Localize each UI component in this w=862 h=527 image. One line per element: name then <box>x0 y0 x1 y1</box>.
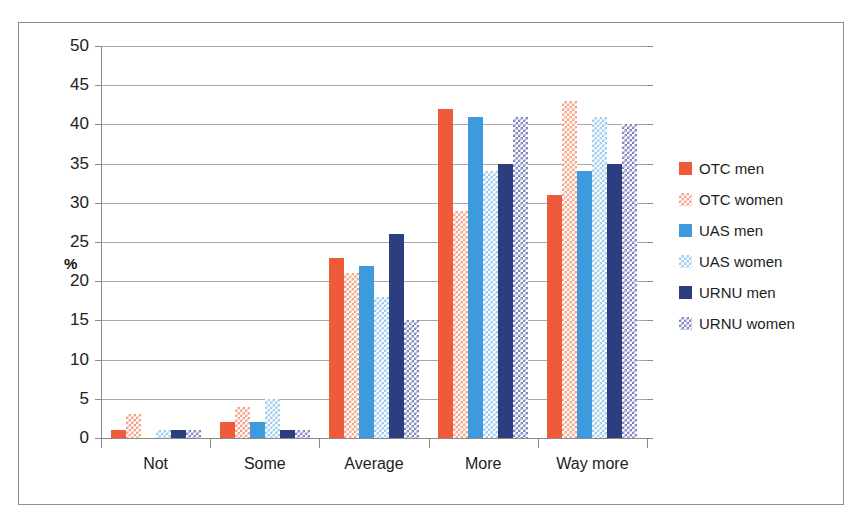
bar-average-uas-women[interactable] <box>374 297 389 438</box>
chart-frame: % 50454035302520151050 NotSomeAverageMor… <box>18 22 844 505</box>
y-tick-right-5 <box>647 399 653 400</box>
x-tick-1 <box>210 438 211 448</box>
bar-more-urnu-women[interactable] <box>513 117 528 438</box>
bar-group-way-more <box>547 46 637 438</box>
x-tick-5 <box>647 438 648 448</box>
y-axis-title: % <box>64 255 77 272</box>
bar-group-some <box>220 46 310 438</box>
bar-average-uas-men[interactable] <box>359 266 374 438</box>
bar-average-urnu-women[interactable] <box>404 320 419 438</box>
x-tick-4 <box>538 438 539 448</box>
bar-some-uas-women[interactable] <box>265 399 280 438</box>
y-axis-label-15: 15 <box>70 310 89 330</box>
bar-more-otc-women[interactable] <box>453 211 468 438</box>
bar-way-more-uas-women[interactable] <box>592 117 607 438</box>
bar-some-otc-women[interactable] <box>235 407 250 438</box>
x-axis-labels: NotSomeAverageMoreWay more <box>101 455 647 485</box>
chart-legend: OTC menOTC womenUAS menUAS womenURNU men… <box>679 153 829 339</box>
bar-not-uas-women[interactable] <box>156 430 171 438</box>
y-axis-label-35: 35 <box>70 154 89 174</box>
legend-item-uas-men[interactable]: UAS men <box>679 215 829 246</box>
bar-average-urnu-men[interactable] <box>389 234 404 438</box>
y-axis-label-5: 5 <box>80 389 89 409</box>
bar-group-more <box>438 46 528 438</box>
legend-swatch-otc-women <box>679 193 692 206</box>
bar-more-uas-women[interactable] <box>483 171 498 438</box>
bar-group-not <box>111 46 201 438</box>
y-tick-right-50 <box>647 46 653 47</box>
x-axis-label-more: More <box>465 455 501 473</box>
legend-swatch-urnu-women <box>679 317 692 330</box>
bar-some-uas-men[interactable] <box>250 422 265 438</box>
bar-not-urnu-men[interactable] <box>171 430 186 438</box>
bar-way-more-urnu-women[interactable] <box>622 124 637 438</box>
y-axis-label-10: 10 <box>70 350 89 370</box>
legend-item-urnu-men[interactable]: URNU men <box>679 277 829 308</box>
x-axis-label-way-more: Way more <box>556 455 628 473</box>
x-tick-3 <box>429 438 430 448</box>
bar-not-urnu-women[interactable] <box>186 430 201 438</box>
x-axis-label-average: Average <box>344 455 403 473</box>
y-axis-label-25: 25 <box>70 232 89 252</box>
bar-group-average <box>329 46 419 438</box>
x-axis-label-not: Not <box>143 455 168 473</box>
legend-swatch-uas-women <box>679 255 692 268</box>
x-axis-label-some: Some <box>244 455 286 473</box>
legend-item-urnu-women[interactable]: URNU women <box>679 308 829 339</box>
bar-way-more-uas-men[interactable] <box>577 171 592 438</box>
plot-area: 50454035302520151050 <box>101 46 647 438</box>
legend-label-uas-women: UAS women <box>699 253 782 270</box>
bar-average-otc-women[interactable] <box>344 273 359 438</box>
legend-swatch-uas-men <box>679 224 692 237</box>
legend-swatch-urnu-men <box>679 286 692 299</box>
bar-some-otc-men[interactable] <box>220 422 235 438</box>
bar-way-more-otc-men[interactable] <box>547 195 562 438</box>
bar-some-urnu-men[interactable] <box>280 430 295 438</box>
legend-item-uas-women[interactable]: UAS women <box>679 246 829 277</box>
bar-not-otc-men[interactable] <box>111 430 126 438</box>
bar-more-uas-men[interactable] <box>468 117 483 438</box>
y-axis-label-20: 20 <box>70 271 89 291</box>
legend-label-otc-men: OTC men <box>699 160 764 177</box>
legend-item-otc-men[interactable]: OTC men <box>679 153 829 184</box>
y-tick-right-20 <box>647 281 653 282</box>
bar-more-otc-men[interactable] <box>438 109 453 438</box>
bar-average-otc-men[interactable] <box>329 258 344 438</box>
bar-way-more-urnu-men[interactable] <box>607 164 622 438</box>
y-axis-label-45: 45 <box>70 75 89 95</box>
gridline-0 <box>101 438 647 439</box>
y-tick-right-25 <box>647 242 653 243</box>
y-axis-label-0: 0 <box>80 428 89 448</box>
bar-more-urnu-men[interactable] <box>498 164 513 438</box>
legend-label-otc-women: OTC women <box>699 191 783 208</box>
bar-some-urnu-women[interactable] <box>295 430 310 438</box>
y-tick-right-10 <box>647 360 653 361</box>
x-tick-0 <box>101 438 102 448</box>
legend-label-uas-men: UAS men <box>699 222 763 239</box>
legend-label-urnu-men: URNU men <box>699 284 776 301</box>
bar-way-more-otc-women[interactable] <box>562 101 577 438</box>
x-tick-2 <box>319 438 320 448</box>
y-axis-label-30: 30 <box>70 193 89 213</box>
y-tick-right-30 <box>647 203 653 204</box>
legend-label-urnu-women: URNU women <box>699 315 795 332</box>
legend-item-otc-women[interactable]: OTC women <box>679 184 829 215</box>
y-tick-right-15 <box>647 320 653 321</box>
y-axis-label-50: 50 <box>70 36 89 56</box>
y-tick-right-35 <box>647 164 653 165</box>
bar-not-otc-women[interactable] <box>126 414 141 438</box>
y-tick-right-45 <box>647 85 653 86</box>
legend-swatch-otc-men <box>679 162 692 175</box>
y-axis-label-40: 40 <box>70 114 89 134</box>
y-tick-right-40 <box>647 124 653 125</box>
bars-layer <box>101 46 647 438</box>
